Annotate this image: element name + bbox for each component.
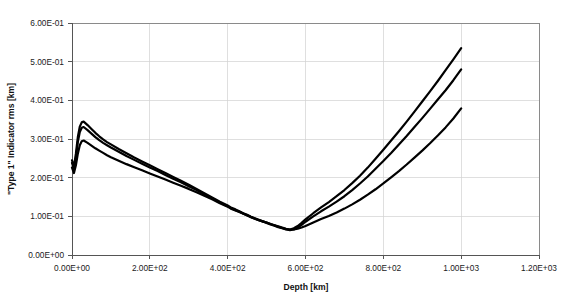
y-tick-label: 0.00E+00 — [28, 250, 64, 260]
y-tick-label: 3.00E-01 — [30, 134, 64, 144]
y-tick-label: 1.00E-01 — [30, 211, 64, 221]
x-tick-label: 8.00E+02 — [365, 263, 401, 273]
y-tick-label: 2.00E-01 — [30, 173, 64, 183]
chart-container: 0.00E+001.00E-012.00E-013.00E-014.00E-01… — [0, 0, 578, 299]
series-line-curve-middle — [72, 69, 461, 230]
x-tick-label: 0.00E+00 — [54, 263, 90, 273]
y-axis-tick-labels: 0.00E+001.00E-012.00E-013.00E-014.00E-01… — [28, 18, 64, 260]
x-tick-label: 1.00E+03 — [443, 263, 479, 273]
y-tick-label: 4.00E-01 — [30, 95, 64, 105]
y-tick-label: 6.00E-01 — [30, 18, 64, 28]
x-tick-label: 2.00E+02 — [132, 263, 168, 273]
x-axis-title: Depth [km] — [284, 282, 329, 292]
y-tick-label: 5.00E-01 — [30, 57, 64, 67]
y-axis-title: "Type 1" Indicator rms [km] — [6, 83, 16, 195]
x-tick-label: 1.20E+03 — [521, 263, 557, 273]
x-tick-label: 6.00E+02 — [288, 263, 324, 273]
chart-svg: 0.00E+001.00E-012.00E-013.00E-014.00E-01… — [0, 0, 578, 299]
x-tick-label: 4.00E+02 — [210, 263, 246, 273]
x-axis-tick-labels: 0.00E+002.00E+024.00E+026.00E+028.00E+02… — [54, 263, 557, 273]
